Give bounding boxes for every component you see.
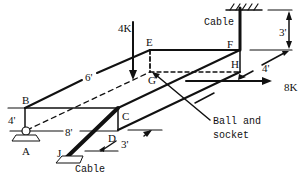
member-be-2 [97, 50, 150, 73]
member-be [25, 80, 82, 108]
cable-top-label: Cable [204, 17, 234, 28]
label-b: B [22, 94, 29, 106]
arrowhead-8k [262, 77, 272, 85]
label-a: A [22, 145, 30, 157]
ball-socket-label-1: Ball and [213, 116, 261, 127]
label-e: E [146, 36, 153, 48]
label-c: C [122, 110, 129, 122]
label-j: J [57, 147, 62, 159]
ceiling-hatch [230, 4, 258, 10]
label-d: D [108, 132, 116, 144]
label-g: G [148, 74, 156, 86]
ball-socket-leader-2 [195, 93, 214, 103]
cable-bottom-label: Cable [75, 164, 105, 175]
arrowhead-3-down [286, 41, 292, 49]
dim-ad-label: 8' [65, 126, 73, 138]
dim-ab-label: 4' [8, 114, 16, 126]
arrowhead-4-up [282, 51, 289, 56]
load-4k-label: 4K [118, 22, 132, 34]
dim-d-label: 3' [121, 138, 129, 150]
frame-diagram: B A C D E F G H J 4' 8' 6' 3' 4' 3' 4K 8… [0, 0, 303, 178]
pin-support-a [22, 127, 30, 135]
load-8k-label: 8K [284, 81, 298, 93]
dim-be-label: 6' [85, 71, 93, 83]
arrowhead-3-up [286, 11, 292, 20]
label-f: F [227, 38, 233, 50]
dim-top-label: 3' [279, 26, 287, 38]
ball-socket-label-2: socket [213, 130, 249, 141]
support-base-a [12, 135, 40, 141]
dim-h-label: 4' [262, 62, 270, 74]
label-h: H [231, 58, 239, 70]
